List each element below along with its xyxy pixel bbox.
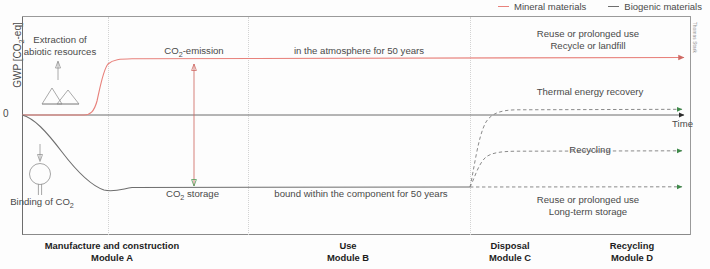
- module-caption-b: Use Module B: [288, 240, 408, 263]
- module-caption-d: Recycling Module D: [577, 240, 687, 263]
- module-caption-c: Disposal Module C: [455, 240, 565, 263]
- module-caption-a: Manufacture and construction Module A: [32, 240, 192, 263]
- annotation-co2-storage: CO2 storage: [140, 188, 245, 203]
- binding-tree-icon: [30, 164, 51, 196]
- annotation-reuse-top: Reuse or prolonged use Recycle or landfi…: [488, 28, 688, 51]
- annotation-co2-emission: CO2-emission: [144, 45, 244, 60]
- diagram-root: Mineral materials Biogenic materials GWP…: [0, 0, 710, 269]
- extraction-piles-icon: [42, 88, 79, 104]
- curve-biogenic-materials: [22, 115, 470, 191]
- x-axis-label-time: Time: [645, 118, 693, 130]
- annotation-in-atmosphere: in the atmosphere for 50 years: [259, 45, 459, 57]
- module-captions: Manufacture and construction Module A Us…: [22, 238, 690, 266]
- extraction-up-arrow-icon: [56, 61, 61, 80]
- annotation-reuse-bottom: Reuse or prolonged use Long-term storage: [488, 194, 688, 217]
- annotation-recycling: Recycling: [525, 144, 655, 156]
- curve-biogenic-recycling: [470, 151, 682, 187]
- binding-down-arrow-icon: [38, 144, 43, 162]
- annotation-extraction: Extraction of abiotic resources: [14, 34, 106, 57]
- annotation-binding-of-co2: Binding of CO2: [6, 196, 78, 211]
- annotation-thermal-energy-recovery: Thermal energy recovery: [490, 86, 690, 98]
- annotation-bound-within-component: bound within the component for 50 years: [255, 188, 467, 200]
